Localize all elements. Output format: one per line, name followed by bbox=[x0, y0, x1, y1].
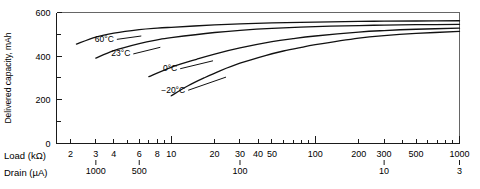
curve-label: 23°C bbox=[111, 48, 130, 58]
curve-label: 60°C bbox=[95, 34, 114, 44]
x-tick-label: 40 bbox=[253, 149, 263, 159]
y-tick-label: 600 bbox=[35, 8, 50, 18]
x-tick-label: 300 bbox=[377, 149, 392, 159]
drain-tick-label: 10 bbox=[379, 166, 389, 176]
x-tick-label: 6 bbox=[137, 149, 142, 159]
x-tick-label: 1000 bbox=[449, 149, 469, 159]
curve-label: 0°C bbox=[163, 63, 177, 73]
x-tick-label: 10 bbox=[166, 149, 176, 159]
drain-tick-label: 3 bbox=[457, 166, 462, 176]
delivered-capacity-vs-load-chart: 0200400600 23468102030405010020030050010… bbox=[0, 0, 480, 189]
y-axis-tick-labels: 0200400600 bbox=[35, 8, 50, 149]
curve-label: −20°C bbox=[161, 85, 185, 95]
x-tick-label: 3 bbox=[93, 149, 98, 159]
x-axis-drain-title: Drain (µA) bbox=[4, 167, 47, 178]
chart-figure: 0200400600 23468102030405010020030050010… bbox=[0, 0, 480, 189]
drain-axis-tick-labels: 1000500100103 bbox=[86, 166, 462, 176]
x-axis-load-title: Load (kΩ) bbox=[4, 150, 46, 161]
y-axis-title: Delivered capacity, mAh bbox=[3, 32, 13, 123]
drain-tick-label: 1000 bbox=[86, 166, 106, 176]
x-axis-load-tick-labels: 2346810203040501002003005001000 bbox=[68, 149, 470, 159]
x-tick-label: 2 bbox=[68, 149, 73, 159]
drain-tick-label: 500 bbox=[132, 166, 147, 176]
y-tick-label: 0 bbox=[45, 139, 50, 149]
y-tick-label: 400 bbox=[35, 52, 50, 62]
drain-axis-ticks bbox=[96, 160, 460, 165]
x-tick-label: 100 bbox=[308, 149, 323, 159]
x-tick-label: 20 bbox=[210, 149, 220, 159]
x-tick-label: 50 bbox=[267, 149, 277, 159]
x-tick-label: 200 bbox=[351, 149, 366, 159]
y-tick-label: 200 bbox=[35, 95, 50, 105]
x-tick-label: 8 bbox=[155, 149, 160, 159]
x-tick-label: 4 bbox=[111, 149, 116, 159]
x-tick-label: 500 bbox=[409, 149, 424, 159]
drain-tick-label: 100 bbox=[232, 166, 247, 176]
x-tick-label: 30 bbox=[235, 149, 245, 159]
